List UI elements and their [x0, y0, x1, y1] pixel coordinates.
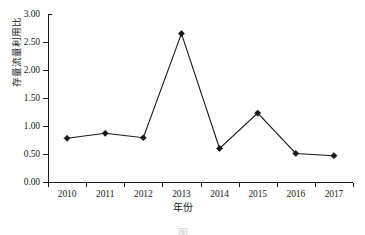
data-point-marker [178, 31, 184, 37]
data-point-marker [140, 135, 146, 141]
data-series-line [0, 0, 365, 235]
y-axis-title: 存量流量利用比 [11, 0, 22, 112]
x-axis-title: 年份 [0, 202, 365, 214]
data-point-marker [331, 153, 337, 159]
series-polyline [67, 34, 334, 156]
data-point-marker [102, 130, 108, 136]
figure-container: 0.000.501.001.502.002.503.00 20102011201… [0, 0, 365, 235]
figure-caption: 图 [0, 228, 365, 235]
data-point-marker [64, 135, 70, 141]
series-markers [64, 31, 337, 159]
